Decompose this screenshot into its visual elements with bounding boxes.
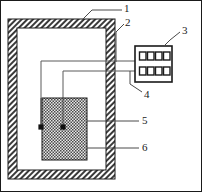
indicator-cell[interactable] — [164, 67, 171, 75]
callout-label-6: 6 — [142, 142, 148, 153]
callout-label-5: 5 — [142, 115, 148, 126]
controller-box[interactable] — [135, 46, 172, 82]
schematic-svg — [0, 0, 202, 192]
indicator-cell[interactable] — [140, 67, 147, 75]
figure-canvas: 1 2 3 4 5 6 — [0, 0, 202, 192]
leader-line-2 — [116, 24, 124, 62]
callout-label-4: 4 — [144, 89, 150, 100]
indicator-cell[interactable] — [156, 52, 163, 60]
indicator-cell[interactable] — [140, 52, 147, 60]
indicator-cell[interactable] — [148, 52, 155, 60]
indicator-cell[interactable] — [156, 67, 163, 75]
callout-label-3: 3 — [182, 25, 188, 36]
callout-label-1: 1 — [124, 3, 130, 14]
edge-electrode-node — [38, 124, 43, 129]
center-electrode-node — [60, 124, 65, 129]
indicator-cell[interactable] — [164, 52, 171, 60]
leader-line-3 — [164, 32, 180, 46]
indicator-cell[interactable] — [148, 67, 155, 75]
callout-label-2: 2 — [125, 17, 131, 28]
